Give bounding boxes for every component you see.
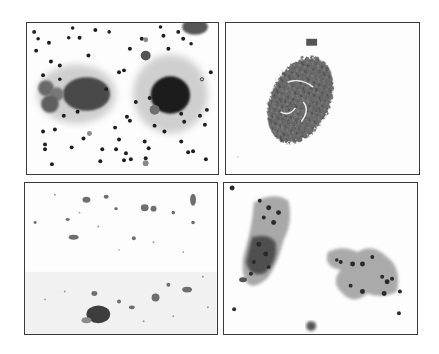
panel-top-right: ﾞ	[225, 22, 420, 175]
micrograph-top-left	[27, 23, 218, 174]
panel-top-left	[26, 22, 219, 175]
stray-mark: ﾞ	[237, 156, 240, 162]
micrograph-top-right: ﾞ	[226, 23, 419, 174]
micrograph-bottom-left	[25, 183, 217, 334]
panel-bottom-right	[223, 182, 418, 335]
micrograph-bottom-right	[224, 183, 417, 334]
panel-bottom-left	[24, 182, 218, 335]
